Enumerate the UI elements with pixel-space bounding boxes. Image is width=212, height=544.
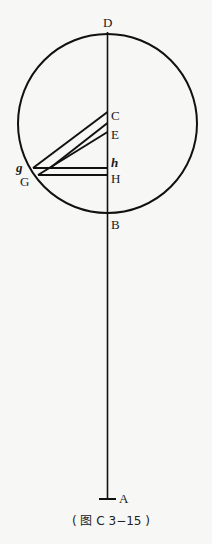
- label-g: g: [15, 160, 23, 175]
- label-H: H: [111, 171, 120, 186]
- label-A: A: [119, 491, 129, 506]
- label-C: C: [111, 108, 120, 123]
- label-B: B: [111, 217, 120, 232]
- label-G: G: [20, 174, 29, 189]
- label-E: E: [111, 127, 119, 142]
- figure-caption: ( 图 C 3−15 ): [72, 514, 150, 528]
- diagram-canvas: D C E h H B A g G ( 图 C 3−15 ): [0, 0, 212, 544]
- label-D: D: [103, 15, 112, 30]
- label-h: h: [111, 155, 118, 170]
